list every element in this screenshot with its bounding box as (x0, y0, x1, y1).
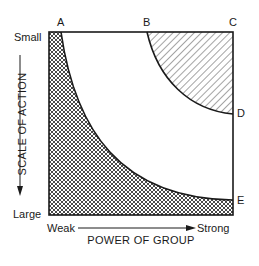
down-arrow-icon (17, 186, 23, 196)
x-axis-left-label: Weak (47, 223, 75, 234)
point-c: C (229, 17, 237, 28)
x-axis-title: POWER OF GROUP (87, 234, 194, 246)
y-axis-bottom-label: Large (13, 209, 41, 220)
right-arrow-icon (186, 225, 196, 231)
hatched-region (147, 32, 233, 114)
point-b: B (143, 17, 150, 28)
y-axis-top-label: Small (14, 32, 42, 43)
point-d: D (237, 108, 245, 119)
point-e: E (237, 195, 244, 206)
y-axis-title: SCALE OF ACTION (16, 73, 28, 176)
point-a: A (57, 17, 64, 28)
x-axis-right-label: Strong (197, 223, 229, 234)
